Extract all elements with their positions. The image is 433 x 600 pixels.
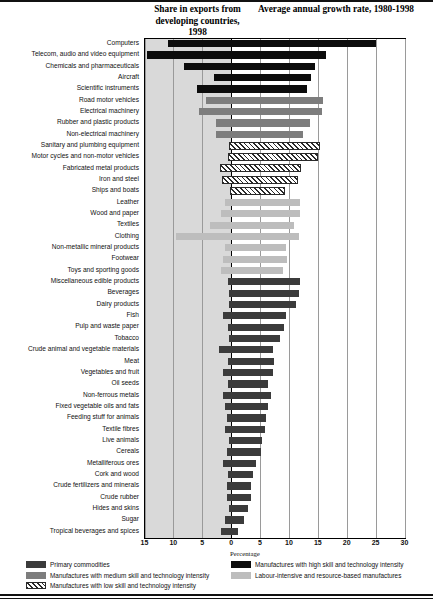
category-label: Motor cycles and non-motor vehicles: [0, 152, 139, 160]
category-label: Footwear: [0, 254, 139, 262]
x-tick-label: 5: [192, 539, 212, 546]
bar-row: [145, 435, 405, 446]
bar: [229, 437, 261, 444]
bar-row: [145, 503, 405, 514]
bar: [227, 494, 251, 501]
bar-row: [145, 413, 405, 424]
bar: [223, 369, 274, 376]
bar: [216, 131, 303, 138]
legend-swatch-primary: [26, 561, 46, 568]
x-tick-label: 15: [308, 539, 328, 546]
bar: [229, 142, 320, 150]
category-label: Sanitary and plumbing equipment: [0, 141, 139, 149]
bar: [229, 505, 248, 512]
category-label: Road motor vehicles: [0, 96, 139, 104]
bar-row: [145, 175, 405, 186]
legend-swatch-low: [26, 582, 46, 589]
category-label: Cork and wood: [0, 470, 139, 478]
category-label: Live animals: [0, 436, 139, 444]
x-tick-label: 0: [221, 539, 241, 546]
category-label: Tobacco: [0, 334, 139, 342]
category-label: Dairy products: [0, 300, 139, 308]
bar: [223, 460, 257, 467]
bar: [223, 312, 286, 319]
x-tick-label: 20: [337, 539, 357, 546]
bar: [227, 414, 266, 421]
category-label: Aircraft: [0, 73, 139, 81]
bar-row: [145, 231, 405, 242]
category-label: Crude fertilizers and minerals: [0, 481, 139, 489]
category-label: Non-electrical machinery: [0, 130, 139, 138]
category-label: Wood and paper: [0, 209, 139, 217]
bar-row: [145, 186, 405, 197]
bar: [227, 482, 251, 489]
x-tick-label: 30: [395, 539, 415, 546]
bar: [221, 528, 237, 535]
legend-item-primary: Primary commodities: [26, 561, 110, 568]
bar: [223, 256, 287, 263]
bar: [168, 40, 376, 47]
category-label: Electrical machinery: [0, 107, 139, 115]
category-label: Fabricated metal products: [0, 164, 139, 172]
bar-row: [145, 61, 405, 72]
category-label: Textile fibres: [0, 425, 139, 433]
bar-row: [145, 265, 405, 276]
bar: [176, 233, 299, 240]
bar-row: [145, 220, 405, 231]
legend-label: Manufactures with high skill and technol…: [255, 561, 404, 568]
category-label: Computers: [0, 39, 139, 47]
x-tick-label: 25: [366, 539, 386, 546]
category-label: Non-metallic mineral products: [0, 243, 139, 251]
category-label: Toys and sporting goods: [0, 266, 139, 274]
legend-swatch-labour: [231, 572, 251, 579]
bar-row: [145, 469, 405, 480]
category-label: Fixed vegetable oils and fats: [0, 402, 139, 410]
bottom-rule-thin: [0, 598, 433, 599]
bar: [214, 74, 311, 81]
bar: [229, 335, 279, 342]
legend-item-low: Manufactures with low skill and technolo…: [26, 582, 196, 589]
category-label: Pulp and waste paper: [0, 322, 139, 330]
category-label-column: ComputersTelecom, audio and video equipm…: [0, 38, 141, 539]
bar: [225, 199, 300, 206]
bar-row: [145, 277, 405, 288]
category-label: Scientific instruments: [0, 84, 139, 92]
category-label: Meat: [0, 357, 139, 365]
category-label: Telecom, audio and video equipment: [0, 50, 139, 58]
bar-row: [145, 299, 405, 310]
bar-row: [145, 288, 405, 299]
gridline-30: [405, 39, 406, 538]
bar: [225, 426, 265, 433]
bar: [225, 244, 286, 251]
category-label: Crude animal and vegetable materials: [0, 345, 139, 353]
category-label: Clothing: [0, 232, 139, 240]
bar-row: [145, 50, 405, 61]
legend-label: Manufactures with low skill and technolo…: [50, 582, 196, 589]
bar-row: [145, 84, 405, 95]
bar-row: [145, 515, 405, 526]
legend-label: Manufactures with medium skill and techn…: [50, 572, 209, 579]
x-axis-label: Percentage: [185, 550, 305, 557]
bar-row: [145, 447, 405, 458]
legend-swatch-high: [231, 561, 251, 568]
legend-item-high: Manufactures with high skill and technol…: [231, 561, 404, 568]
bar-row: [145, 39, 405, 50]
bar-row: [145, 345, 405, 356]
bar: [225, 516, 244, 523]
legend-item-medium: Manufactures with medium skill and techn…: [26, 572, 209, 579]
chart-legend: Primary commoditiesManufactures with hig…: [26, 561, 418, 593]
bar-row: [145, 197, 405, 208]
bar: [216, 119, 310, 126]
bar: [223, 392, 271, 399]
bar: [228, 471, 252, 478]
growth-column-title: Average annual growth rate, 1980-1998: [256, 4, 416, 16]
bar-row: [145, 424, 405, 435]
bar-row: [145, 254, 405, 265]
bar-row: [145, 390, 405, 401]
bar: [230, 187, 285, 195]
x-tick-label: 10: [163, 539, 183, 546]
bar: [228, 324, 284, 331]
bar-group: [145, 39, 405, 538]
bar: [228, 153, 318, 161]
bar: [228, 380, 267, 387]
